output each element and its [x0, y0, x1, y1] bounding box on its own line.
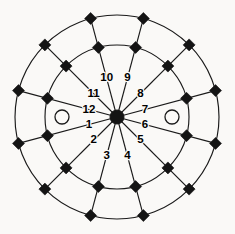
- ring-node-outer-10: [137, 210, 149, 222]
- sector-label-8: 8: [137, 87, 144, 99]
- sector-label-10: 10: [100, 71, 113, 83]
- ring-node-inner-3: [130, 41, 142, 53]
- spoke-3: [117, 18, 143, 117]
- sector-label-1: 1: [86, 118, 93, 130]
- axis-hollow-dot-left: [55, 110, 69, 124]
- ring-node-inner-12: [181, 130, 193, 142]
- sector-label-12: 12: [83, 103, 96, 115]
- sector-label-5: 5: [137, 133, 144, 145]
- ring-node-inner-7: [41, 130, 53, 142]
- ring-node-outer-9: [85, 210, 97, 222]
- sector-label-9: 9: [124, 71, 130, 83]
- ring-node-outer-4: [85, 12, 97, 24]
- radial-sector-diagram: 123456789101112: [0, 0, 235, 234]
- sector-label-3: 3: [103, 149, 109, 161]
- spoke-9: [91, 117, 117, 216]
- center-hub: [110, 110, 124, 124]
- center-hub-group: [110, 110, 124, 124]
- axis-hollow-dot-right: [165, 110, 179, 124]
- ring-node-outer-3: [137, 12, 149, 24]
- ring-node-inner-6: [41, 92, 53, 104]
- ring-node-inner-1: [181, 92, 193, 104]
- ring-node-inner-10: [130, 181, 142, 193]
- ring-node-outer-6: [12, 85, 24, 97]
- ring-node-inner-4: [92, 41, 104, 53]
- sector-label-6: 6: [142, 118, 148, 130]
- spoke-10: [117, 117, 143, 216]
- ring-node-outer-7: [12, 137, 24, 149]
- ring-node-outer-12: [210, 137, 222, 149]
- ring-node-outer-1: [210, 85, 222, 97]
- sector-label-2: 2: [90, 133, 96, 145]
- ring-node-inner-9: [92, 181, 104, 193]
- sector-label-11: 11: [88, 87, 101, 99]
- diagram-canvas: 123456789101112: [0, 0, 235, 234]
- sector-label-7: 7: [142, 103, 148, 115]
- sector-label-4: 4: [124, 149, 131, 161]
